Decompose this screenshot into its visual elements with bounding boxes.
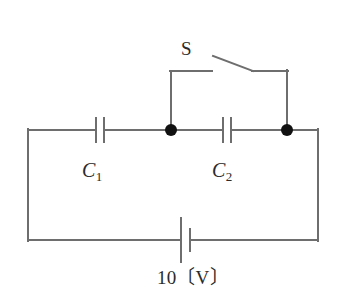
circuit-diagram-figure: S C1 C2 10〔V〕 [0,0,339,305]
capacitor-c1-label: C1 [82,160,102,183]
switch-branch[interactable] [170,56,288,130]
switch-blade[interactable] [213,56,253,71]
capacitor-c2-label-letter: C [212,159,225,181]
switch-label: S [181,39,192,58]
battery-source [181,217,190,263]
capacitor-c2-label-subscript: 2 [226,169,233,184]
junction-node-right [281,124,293,136]
capacitor-c2 [223,117,231,143]
junction-node-left [165,124,177,136]
capacitor-c2-label: C2 [212,160,232,183]
main-loop-wires [28,129,318,241]
capacitor-c1-label-letter: C [82,159,95,181]
source-voltage-label: 10〔V〕 [157,268,229,287]
circuit-schematic-svg [0,0,339,305]
capacitor-c1 [96,117,104,143]
capacitor-c1-label-subscript: 1 [96,169,103,184]
